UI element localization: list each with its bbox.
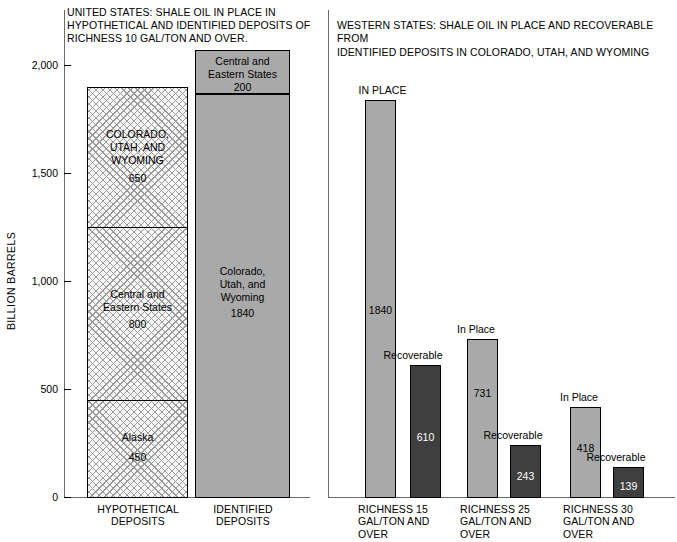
bar-caption-in-place-15: IN PLACE	[335, 84, 430, 96]
segment-value-identified-central-eastern-states: 200	[196, 81, 289, 93]
segment-value-alaska: 450	[88, 451, 187, 463]
segment-label-alaska: Alaska	[88, 431, 187, 444]
y-tick-1000	[64, 281, 71, 282]
y-tick-label-1500: 1,500	[0, 167, 58, 179]
y-tick-label-500: 500	[0, 383, 58, 395]
bar-recoverable-richness-30[interactable]: 139	[613, 467, 644, 498]
y-tick-label-0: 0	[0, 491, 58, 503]
y-axis-title: BILLION BARRELS	[5, 226, 17, 336]
y-tick-label-2000: 2,000	[0, 59, 58, 71]
bar-identified-central-eastern-states[interactable]: Central and Eastern States 200	[195, 50, 290, 94]
bar-hypothetical-colorado-utah-wyoming[interactable]: COLORADO, UTAH, AND WYOMING 650	[87, 87, 188, 228]
segment-label-identified-central-eastern-states: Central and Eastern States	[196, 55, 289, 81]
segment-label-identified-colorado-utah-wyoming: Colorado, Utah, and Wyoming	[196, 265, 289, 305]
bar-value-in-place-25: 731	[468, 387, 497, 399]
right-panel: WESTERN STATES: SHALE OIL IN PLACE AND R…	[320, 0, 677, 542]
bar-value-recoverable-30: 139	[614, 480, 643, 492]
bar-caption-in-place-25: In Place	[430, 323, 522, 335]
bar-in-place-richness-25[interactable]: 731	[467, 339, 498, 498]
y-tick-500	[64, 389, 71, 390]
bar-value-recoverable-25: 243	[511, 470, 540, 482]
y-tick-1500	[64, 173, 71, 174]
bar-caption-recoverable-15: Recoverable	[363, 349, 463, 361]
segment-value-colorado-utah-wyoming: 650	[88, 172, 187, 184]
y-tick-0	[64, 497, 71, 498]
segment-label-colorado-utah-wyoming: COLORADO, UTAH, AND WYOMING	[88, 128, 187, 168]
bar-hypothetical-alaska[interactable]: Alaska 450	[87, 400, 188, 498]
right-y-axis-line	[328, 10, 329, 498]
left-panel: UNITED STATES: SHALE OIL IN PLACE IN HYP…	[0, 0, 320, 542]
segment-label-central-eastern-states: Central and Eastern States	[88, 288, 187, 314]
bar-in-place-richness-15[interactable]: 1840	[365, 100, 396, 498]
x-label-identified-deposits: IDENTIFIED DEPOSITS	[187, 503, 299, 528]
right-panel-title: WESTERN STATES: SHALE OIL IN PLACE AND R…	[337, 19, 677, 59]
segment-value-central-eastern-states: 800	[88, 318, 187, 330]
bar-identified-colorado-utah-wyoming[interactable]: Colorado, Utah, and Wyoming 1840	[195, 94, 290, 498]
x-label-hypothetical-deposits: HYPOTHETICAL DEPOSITS	[82, 503, 194, 528]
figure-container: UNITED STATES: SHALE OIL IN PLACE IN HYP…	[0, 0, 677, 542]
bar-value-in-place-15: 1840	[366, 304, 395, 316]
x-label-richness-15: RICHNESS 15 GAL/TON AND OVER	[358, 503, 452, 540]
bar-recoverable-richness-15[interactable]: 610	[410, 365, 441, 498]
left-panel-title: UNITED STATES: SHALE OIL IN PLACE IN HYP…	[67, 6, 317, 46]
bar-caption-recoverable-25: Recoverable	[463, 429, 563, 441]
segment-value-identified-colorado-utah-wyoming: 1840	[196, 307, 289, 319]
x-label-richness-25: RICHNESS 25 GAL/TON AND OVER	[460, 503, 554, 540]
bar-hypothetical-central-eastern-states[interactable]: Central and Eastern States 800	[87, 227, 188, 401]
left-y-axis-line	[64, 10, 65, 498]
y-tick-2000	[64, 65, 71, 66]
bar-value-recoverable-15: 610	[411, 431, 440, 443]
bar-caption-recoverable-30: Recoverable	[566, 451, 666, 463]
x-label-richness-30: RICHNESS 30 GAL/TON AND OVER	[563, 503, 657, 540]
bar-recoverable-richness-25[interactable]: 243	[510, 445, 541, 498]
bar-caption-in-place-30: In Place	[533, 391, 625, 403]
